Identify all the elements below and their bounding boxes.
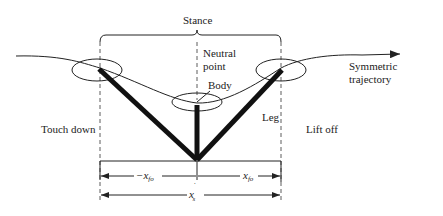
symmetric-trajectory-label-2: trajectory [349, 73, 392, 85]
stance-label: Stance [183, 14, 212, 26]
stance-phase-diagram: Stance Neutral point Body Symmetric traj… [0, 0, 443, 216]
body-label: Body [208, 79, 232, 91]
neg-xfo-label: −xfo [136, 169, 154, 183]
touch-down-label: Touch down [41, 123, 96, 135]
xs-label: x˙s [188, 182, 196, 203]
neutral-point-label-1: Neutral [203, 47, 236, 59]
xfo-label: xfo [242, 169, 254, 183]
body-ellipse-touchdown [72, 59, 122, 81]
stance-brace [100, 30, 281, 42]
symmetric-trajectory-label-1: Symmetric [349, 60, 397, 72]
lift-off-label: Lift off [306, 123, 338, 135]
leg-label: Leg [262, 111, 280, 123]
leg-touchdown [99, 69, 197, 160]
neutral-point-label-2: point [203, 60, 226, 72]
